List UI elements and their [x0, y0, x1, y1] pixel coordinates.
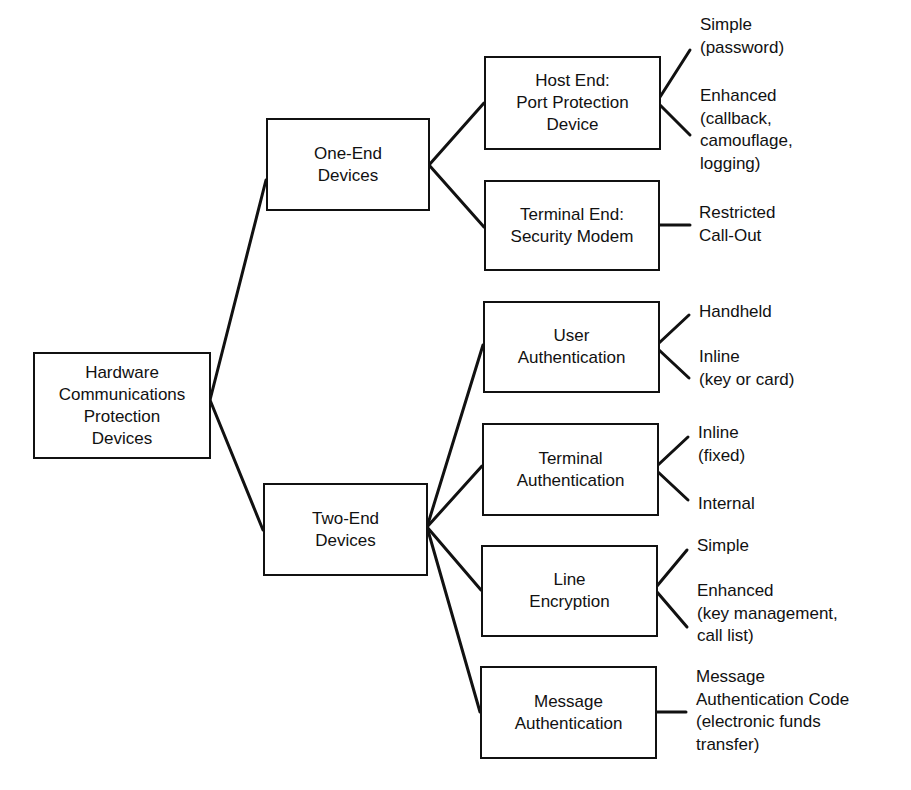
leaf-line: call list) — [697, 625, 838, 648]
leaf-line: Call-Out — [699, 225, 776, 248]
edge-line-enc-simple — [657, 550, 687, 586]
node-line-encryption: Line Encryption — [481, 545, 658, 637]
leaf-line: Inline — [698, 422, 745, 445]
node-label-line: Port Protection — [516, 92, 628, 114]
leaf-line: Simple — [697, 535, 749, 558]
leaf-line: Handheld — [699, 301, 772, 324]
leaf-line: Inline — [699, 346, 794, 369]
leaf-line: Enhanced — [697, 580, 838, 603]
node-terminal-authentication: Terminal Authentication — [482, 423, 659, 516]
node-label-line: Terminal End: — [520, 204, 624, 226]
leaf-inline-fixed: Inline (fixed) — [698, 422, 745, 467]
edge-root-two-end — [210, 400, 263, 530]
edge-terminal-auth-inline — [658, 437, 688, 465]
node-user-authentication: User Authentication — [483, 301, 660, 393]
leaf-line: (fixed) — [698, 445, 745, 468]
leaf-simple-password: Simple (password) — [700, 14, 784, 59]
node-root-line: Protection — [84, 406, 161, 428]
node-label-line: Device — [547, 114, 599, 136]
edge-line-enc-enhanced — [657, 592, 687, 627]
leaf-enhanced-callback: Enhanced (callback, camouflage, logging) — [700, 85, 793, 175]
leaf-enhanced-key-management: Enhanced (key management, call list) — [697, 580, 838, 648]
leaf-line: logging) — [700, 153, 793, 176]
leaf-handheld: Handheld — [699, 301, 772, 324]
node-label-line: Message — [534, 691, 603, 713]
node-label-line: Terminal — [538, 448, 602, 470]
edge-two-end-user-auth — [427, 345, 483, 527]
node-root-line: Devices — [92, 428, 152, 450]
node-label-line: Host End: — [535, 70, 610, 92]
leaf-line: Authentication Code — [696, 689, 849, 712]
edge-user-auth-inline — [659, 350, 689, 378]
node-label-line: Encryption — [529, 591, 609, 613]
node-label-line: Authentication — [515, 713, 623, 735]
edge-one-end-terminal-end — [429, 165, 484, 227]
node-label-line: Authentication — [517, 470, 625, 492]
node-label-line: One-End — [314, 143, 382, 165]
leaf-message-authentication-code: Message Authentication Code (electronic … — [696, 666, 849, 756]
leaf-line: (electronic funds — [696, 711, 849, 734]
node-message-authentication: Message Authentication — [480, 666, 657, 759]
node-root-line: Communications — [59, 384, 186, 406]
leaf-line: (password) — [700, 37, 784, 60]
node-label-line: Devices — [315, 530, 375, 552]
leaf-line: transfer) — [696, 734, 849, 757]
leaf-line: (key or card) — [699, 369, 794, 392]
leaf-restricted-call-out: Restricted Call-Out — [699, 202, 776, 247]
edge-terminal-auth-internal — [658, 472, 688, 500]
leaf-line: camouflage, — [700, 130, 793, 153]
node-label-line: Security Modem — [511, 226, 634, 248]
edge-root-one-end — [210, 180, 266, 400]
leaf-line: (key management, — [697, 603, 838, 626]
leaf-simple-line-enc: Simple — [697, 535, 749, 558]
edge-one-end-host-end — [429, 103, 484, 165]
leaf-line: Internal — [698, 493, 755, 516]
node-label-line: Two-End — [312, 508, 379, 530]
leaf-line: Message — [696, 666, 849, 689]
edge-two-end-msg-auth — [427, 527, 480, 712]
leaf-internal: Internal — [698, 493, 755, 516]
node-root: Hardware Communications Protection Devic… — [33, 352, 211, 459]
edge-host-end-enhanced — [660, 105, 690, 135]
node-host-end-port-protection: Host End: Port Protection Device — [484, 56, 661, 150]
node-label-line: Line — [553, 569, 585, 591]
edge-host-end-simple — [660, 50, 690, 97]
node-terminal-end-security-modem: Terminal End: Security Modem — [484, 180, 660, 271]
node-label-line: Devices — [318, 165, 378, 187]
leaf-line: Simple — [700, 14, 784, 37]
edge-user-auth-handheld — [659, 315, 689, 343]
leaf-line: Restricted — [699, 202, 776, 225]
node-root-line: Hardware — [85, 362, 159, 384]
node-two-end-devices: Two-End Devices — [263, 483, 428, 576]
node-label-line: Authentication — [518, 347, 626, 369]
leaf-line: Enhanced — [700, 85, 793, 108]
leaf-inline-key-or-card: Inline (key or card) — [699, 346, 794, 391]
leaf-line: (callback, — [700, 108, 793, 131]
node-label-line: User — [554, 325, 590, 347]
node-one-end-devices: One-End Devices — [266, 118, 430, 211]
